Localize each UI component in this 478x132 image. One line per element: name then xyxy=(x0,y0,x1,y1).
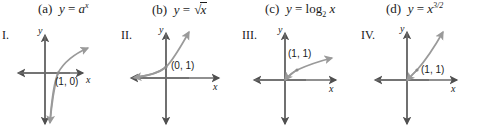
point-marker-IV xyxy=(415,68,418,71)
function-equals-c: = xyxy=(295,1,302,16)
function-lhs-d: y xyxy=(408,1,414,16)
function-lhs-b: y xyxy=(174,2,180,17)
x-axis-label-IV: x xyxy=(451,83,455,94)
function-tag-b: (b) xyxy=(152,2,167,17)
function-label-b: (b) y = √x xyxy=(152,2,207,16)
function-equals-d: = xyxy=(417,1,424,16)
function-label-a: (a) y = ax xyxy=(38,2,89,15)
curve-IV-start xyxy=(407,70,417,81)
x-axis-label-III: x xyxy=(329,83,333,94)
graph-cell-I: I. (1, 0) x y xyxy=(0,26,119,132)
graph-cell-IV: IV. (1, 1) x y xyxy=(359,26,478,132)
y-axis-label-IV: y xyxy=(400,23,404,34)
function-lhs-a: y xyxy=(59,1,65,16)
y-axis-label-I: y xyxy=(38,25,42,36)
function-label-d: (d) y = x3/2 xyxy=(386,2,443,15)
x-axis-label-I: x xyxy=(86,74,90,85)
figure-sheet: (a) y = ax (b) y = √x (c) y = log2 x (d)… xyxy=(0,0,478,132)
curve-III-start xyxy=(285,70,297,80)
curve-III xyxy=(285,58,332,80)
function-arg-c: x xyxy=(329,1,335,16)
function-tag-d: (d) xyxy=(386,1,401,16)
point-marker-II xyxy=(164,65,167,68)
function-label-c: (c) y = log2 x xyxy=(265,2,335,15)
point-label-III: (1, 1) xyxy=(288,48,311,59)
graph-svg-IV xyxy=(359,26,478,132)
graph-cell-II: II. (0, 1) x y xyxy=(119,26,238,132)
point-marker-III xyxy=(295,68,298,71)
point-label-II: (0, 1) xyxy=(171,60,194,71)
graph-cell-III: III. (1, 1) x y xyxy=(240,26,359,132)
function-tag-c: (c) xyxy=(265,1,279,16)
point-marker-I xyxy=(56,71,59,74)
x-axis-label-II: x xyxy=(213,81,217,92)
function-lhs-c: y xyxy=(286,1,292,16)
graph-svg-II xyxy=(119,26,238,132)
function-equals-a: = xyxy=(68,1,75,16)
graph-svg-III xyxy=(240,26,359,132)
function-equals-b: = xyxy=(183,2,190,17)
function-tag-a: (a) xyxy=(38,1,52,16)
function-exponent-d: 3/2 xyxy=(433,1,443,10)
radical-icon: √x xyxy=(193,2,207,16)
function-exponent-a: x xyxy=(85,1,89,10)
point-label-IV: (1, 1) xyxy=(421,64,444,75)
y-axis-label-II: y xyxy=(159,24,163,35)
function-log-c: log xyxy=(306,1,323,16)
function-logbase-c: 2 xyxy=(322,10,326,19)
y-axis-label-III: y xyxy=(278,24,282,35)
function-label-row: (a) y = ax (b) y = √x (c) y = log2 x (d)… xyxy=(0,0,478,24)
function-radicand-b: x xyxy=(200,2,207,16)
point-label-I: (1, 0) xyxy=(55,76,78,87)
